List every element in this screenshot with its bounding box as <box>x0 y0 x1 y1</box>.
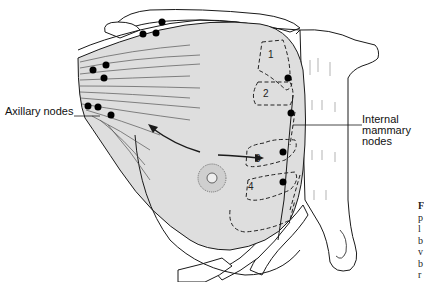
axillary-nodes-label: Axillary nodes <box>5 106 73 117</box>
space-4-label: 4 <box>248 181 254 192</box>
internal-label-line3: nodes <box>362 136 411 147</box>
truncated-caption: F p l b v b r <box>418 200 424 281</box>
internal-mammary-nodes-label: Internal mammary nodes <box>362 114 411 147</box>
space-2-label: 2 <box>263 88 269 99</box>
nipple <box>198 164 226 192</box>
caption-char: p <box>418 212 424 224</box>
breast-lymphatic-diagram: 1 2 3 4 <box>0 0 424 282</box>
space-1-label: 1 <box>268 49 274 60</box>
caption-char: F <box>418 200 424 212</box>
caption-char: r <box>418 269 424 281</box>
caption-char: l <box>418 223 424 235</box>
caption-char: b <box>418 258 424 270</box>
caption-char: v <box>418 246 424 258</box>
caption-char: b <box>418 235 424 247</box>
